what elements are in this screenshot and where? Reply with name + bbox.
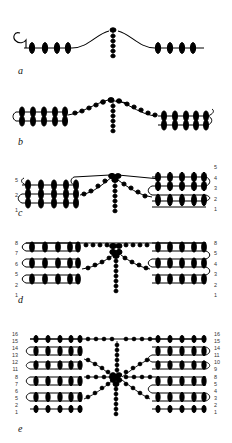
row-number: 15: [2, 339, 18, 344]
panel-e-drawing: [0, 315, 232, 443]
panel-c-drawing: [0, 155, 232, 225]
panel-letter-c: c: [18, 208, 22, 218]
row-number: 5: [2, 396, 18, 401]
panel-letter-e: e: [18, 424, 22, 434]
row-number: 2: [214, 197, 228, 202]
panel-letter-d: d: [18, 295, 23, 305]
row-number: 8: [2, 375, 18, 380]
figure-root: a b c d e 521 54321 876521 854321 161514…: [0, 0, 232, 443]
row-number: 6: [2, 389, 18, 394]
row-numbers-c-right: 54321: [214, 165, 228, 207]
panel-b: [0, 85, 232, 155]
row-number: 14: [2, 346, 18, 351]
row-number: 1: [4, 208, 18, 213]
row-number: 7: [4, 251, 18, 256]
row-number: 5: [214, 251, 228, 256]
row-number: 1: [214, 293, 228, 298]
row-number: 10: [214, 360, 230, 365]
panel-letter-b: b: [18, 137, 23, 147]
row-number: 12: [2, 360, 18, 365]
panel-a-drawing: [0, 0, 232, 85]
row-number: 1: [214, 410, 230, 415]
row-number: 2: [214, 283, 228, 288]
row-number: 16: [2, 332, 18, 337]
panel-d-drawing: [0, 225, 232, 315]
row-number: 16: [214, 332, 230, 337]
row-numbers-e-left: 161514131211876521: [2, 332, 18, 410]
panel-b-drawing: [0, 85, 232, 155]
row-number: 3: [214, 186, 228, 191]
row-number: 1: [2, 410, 18, 415]
row-number: 11: [214, 353, 230, 358]
panel-e: [0, 315, 232, 443]
row-number: 4: [214, 389, 230, 394]
row-number: 2: [2, 403, 18, 408]
row-number: 5: [4, 272, 18, 277]
row-number: 7: [2, 382, 18, 387]
row-number: 14: [214, 346, 230, 351]
row-number: 3: [214, 272, 228, 277]
row-numbers-c-left: 521: [4, 178, 18, 208]
row-number: 4: [214, 262, 228, 267]
row-numbers-e-right: 16151411109854321: [214, 332, 230, 410]
panel-c: [0, 155, 232, 225]
row-number: 11: [2, 367, 18, 372]
row-number: 5: [4, 178, 18, 183]
row-number: 9: [214, 367, 230, 372]
panel-a: [0, 0, 232, 85]
panel-letter-a: a: [18, 66, 23, 76]
row-numbers-d-right: 854321: [214, 241, 228, 293]
row-number: 13: [2, 353, 18, 358]
row-number: 2: [4, 193, 18, 198]
row-number: 3: [214, 396, 230, 401]
row-number: 8: [214, 241, 228, 246]
row-number: 2: [4, 283, 18, 288]
row-number: 8: [214, 375, 230, 380]
row-number: 6: [4, 262, 18, 267]
row-number: 1: [4, 293, 18, 298]
row-number: 15: [214, 339, 230, 344]
panel-d: [0, 225, 232, 315]
row-number: 4: [214, 176, 228, 181]
row-number: 2: [214, 403, 230, 408]
row-number: 8: [4, 241, 18, 246]
row-numbers-d-left: 876521: [4, 241, 18, 293]
row-number: 1: [214, 207, 228, 212]
row-number: 5: [214, 382, 230, 387]
row-number: 5: [214, 165, 228, 170]
